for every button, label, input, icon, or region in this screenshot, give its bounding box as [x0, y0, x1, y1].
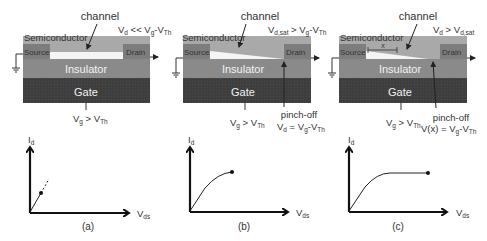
semiconductor-label: Semiconductor	[340, 32, 403, 43]
gate-label: Gate	[388, 86, 412, 98]
panel-a: Semiconductor Source Drain Insulator Gat…	[12, 10, 172, 232]
channel-label: channel	[241, 10, 280, 22]
drain-voltage-condition: Vd > Vd,sat	[433, 24, 474, 36]
x-axis-label: Vds	[456, 207, 470, 219]
iv-curve-saturation	[349, 173, 428, 211]
drain-voltage-condition: Vd,sat > Vg-VTh	[268, 24, 327, 37]
gate-voltage-condition: Vg > VTh	[73, 113, 108, 126]
operating-point	[39, 191, 43, 195]
insulator-label: Insulator	[65, 63, 108, 75]
gate-label: Gate	[74, 86, 98, 98]
iv-curve-extension	[41, 179, 49, 193]
panel-b: Semiconductor Source Drain Insulator Gat…	[172, 10, 327, 232]
panel-c: Semiconductor Source Drain Insulator Gat…	[328, 10, 477, 232]
iv-graph-b: Id Vds	[188, 134, 310, 219]
x-marker-label: x	[381, 42, 385, 49]
drain-voltage-condition: Vd << Vg-VTh	[118, 24, 172, 37]
insulator-label: Insulator	[379, 63, 422, 75]
pinch-off-label: pinch-off	[433, 112, 470, 123]
drain-label: Drain	[126, 48, 145, 57]
operating-point	[426, 171, 430, 175]
x-axis-label: Vds	[296, 207, 310, 219]
device-cross-section: Semiconductor Source Drain Insulator Gat…	[339, 32, 467, 103]
x-axis-label: Vds	[137, 208, 151, 220]
y-axis-label: Id	[348, 134, 355, 146]
y-axis-label: Id	[188, 134, 195, 146]
iv-curve-knee	[190, 172, 232, 211]
semiconductor-label: Semiconductor	[24, 32, 87, 43]
ground-icon	[172, 58, 183, 77]
source-label: Source	[340, 48, 366, 57]
semiconductor-label: Semiconductor	[182, 32, 245, 43]
pinch-off-condition: Vd = Vg-VTh	[277, 121, 325, 134]
iv-graph-c: Id Vds	[348, 134, 470, 219]
caption-a: (a)	[82, 221, 94, 232]
saturation-onset-point	[230, 170, 234, 174]
gate-voltage-condition: Vg > VTh	[230, 117, 265, 130]
device-cross-section: Semiconductor Source Drain Insulator Gat…	[23, 32, 150, 103]
insulator-label: Insulator	[222, 63, 265, 75]
pinch-off-condition: V(x) = Vg-VTh	[421, 123, 477, 136]
caption-c: (c)	[392, 221, 404, 232]
channel-label: channel	[81, 10, 120, 22]
source-label: Source	[24, 48, 50, 57]
iv-curve-linear	[30, 193, 41, 212]
caption-b: (b)	[238, 221, 250, 232]
iv-graph-a: Id Vds	[28, 134, 151, 220]
y-axis-label: Id	[28, 134, 35, 146]
source-label: Source	[184, 48, 210, 57]
channel-region	[50, 52, 123, 59]
ground-icon	[12, 54, 23, 72]
mosfet-operation-figure: Semiconductor Source Drain Insulator Gat…	[0, 0, 487, 241]
gate-voltage-condition: Vg > VTh	[386, 117, 421, 130]
ground-icon	[328, 58, 339, 77]
device-cross-section: Semiconductor Source Drain Insulator Gat…	[182, 32, 311, 103]
gate-label: Gate	[231, 86, 255, 98]
channel-label: channel	[399, 10, 438, 22]
drain-label: Drain	[286, 48, 305, 57]
pinch-off-label: pinch-off	[281, 109, 318, 120]
drain-label: Drain	[442, 48, 461, 57]
